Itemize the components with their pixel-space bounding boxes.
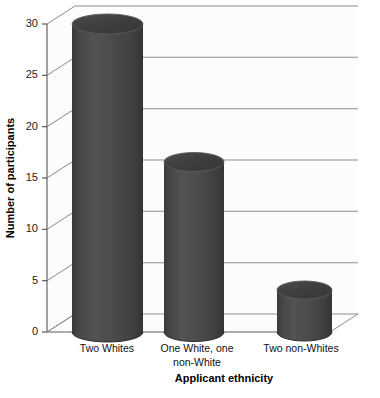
y-tick-label: 30 — [26, 17, 38, 29]
category-label-two-whites: Two Whites — [80, 342, 134, 354]
y-axis-title: Number of participants — [4, 118, 16, 238]
chart-canvas: 30 25 20 15 10 5 0 Two Whites — [0, 0, 380, 398]
y-tick-label: 10 — [26, 222, 38, 234]
y-tick-label: 0 — [32, 325, 38, 337]
y-tick-label: 15 — [26, 171, 38, 183]
category-label-two-non-whites: Two non-Whites — [263, 342, 338, 354]
y-tick-label: 5 — [32, 274, 38, 286]
x-axis-title: Applicant ethnicity — [175, 372, 274, 384]
bar-one-white-one-non-white — [164, 153, 224, 342]
bar-two-whites — [72, 14, 143, 342]
y-tick-label: 25 — [26, 68, 38, 80]
x-tick-labels: Two Whites One White, one non-White Two … — [80, 342, 339, 368]
bar-chart: 30 25 20 15 10 5 0 Two Whites — [0, 0, 380, 398]
category-label-one-white-line1: One White, one — [161, 342, 234, 354]
bar-two-non-whites — [277, 281, 332, 341]
y-tick-label: 20 — [26, 120, 38, 132]
category-label-one-white-line2: non-White — [173, 356, 221, 368]
y-tick-labels: 30 25 20 15 10 5 0 — [26, 17, 38, 337]
y-axis — [42, 24, 47, 332]
